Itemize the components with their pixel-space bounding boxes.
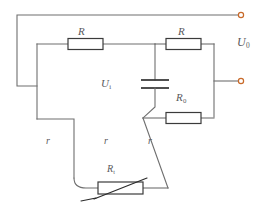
label-output-voltage-symbol: U [237,35,246,49]
label-capacitor-voltage: Ui [101,78,111,89]
label-lead-r-right: r [148,136,152,146]
wire-capacitor-to-junction [143,88,155,118]
label-resistor-top-left: R [78,26,85,37]
label-resistor-top-right: R [178,26,185,37]
label-resistor-r0-symbol: R [176,91,183,103]
wire-left-bus-to-lower-arm [37,119,74,178]
label-lead-r-left: r [46,136,50,146]
label-resistor-r0: R0 [176,92,186,103]
label-resistor-r0-subscript: 0 [183,97,186,104]
resistor-top-left-body [68,39,103,50]
label-lead-r-middle: r [104,136,108,146]
label-thermistor-subscript: t [113,168,115,175]
resistor-r0-body [166,113,201,124]
label-capacitor-voltage-symbol: U [101,77,109,89]
wire-lower-arm-curve-to-thermistor [74,178,98,188]
label-output-voltage: U0 [237,36,249,48]
circuit-diagram: R R U0 Ui R0 r r r Rt [0,0,272,211]
label-capacitor-voltage-subscript: i [109,83,111,90]
label-output-voltage-subscript: 0 [246,41,250,50]
output-terminal-top[interactable] [238,12,243,17]
circuit-schematic-svg [0,0,272,211]
wire-top-outer-loop [17,15,238,86]
resistor-top-right-body [166,39,201,50]
label-thermistor: Rt [107,164,115,174]
output-terminal-bottom[interactable] [238,78,243,83]
